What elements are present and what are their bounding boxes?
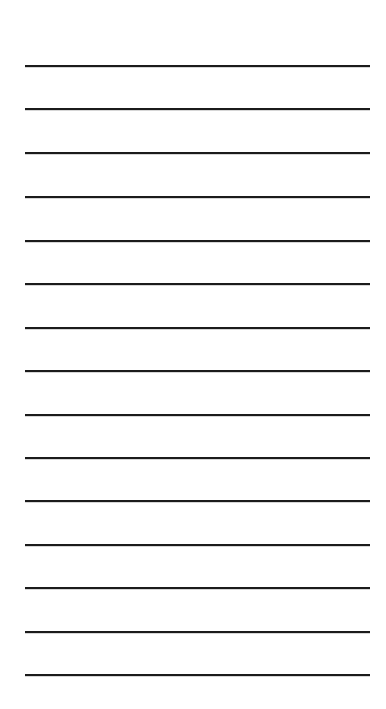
rule-line bbox=[25, 457, 370, 459]
rule-line bbox=[25, 500, 370, 502]
rule-line bbox=[25, 283, 370, 285]
rule-line bbox=[25, 108, 370, 110]
paper-sheet bbox=[0, 0, 386, 709]
rule-line bbox=[25, 152, 370, 154]
rule-line bbox=[25, 240, 370, 242]
rule-line bbox=[25, 196, 370, 198]
rule-line bbox=[25, 414, 370, 416]
page-canvas bbox=[0, 0, 386, 709]
rule-line bbox=[25, 327, 370, 329]
rule-line bbox=[25, 370, 370, 372]
rule-line bbox=[25, 544, 370, 546]
rule-line bbox=[25, 65, 370, 67]
rule-line bbox=[25, 587, 370, 589]
rule-line bbox=[25, 674, 370, 676]
rule-line bbox=[25, 631, 370, 633]
